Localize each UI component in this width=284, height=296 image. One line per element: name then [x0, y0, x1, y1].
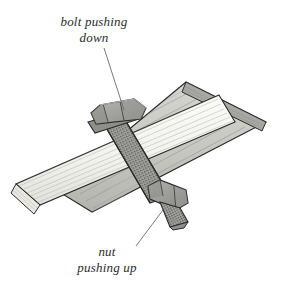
nut-annotation-label: nut pushing up — [52, 244, 162, 276]
bolt-annotation-label: bolt pushing down — [34, 14, 154, 46]
bolt-head — [91, 99, 146, 124]
bolt-tip — [160, 202, 188, 230]
figure-canvas: bolt pushing down nut pushing up — [0, 0, 284, 296]
nut-annotation-line-1: nut — [52, 244, 162, 260]
leader-line-nut — [136, 210, 163, 246]
leader-line-bolt — [104, 48, 124, 110]
bolt-annotation-line-1: bolt pushing — [34, 14, 154, 30]
nut-annotation-line-2: pushing up — [52, 260, 162, 276]
bolt-annotation-line-2: down — [34, 30, 154, 46]
